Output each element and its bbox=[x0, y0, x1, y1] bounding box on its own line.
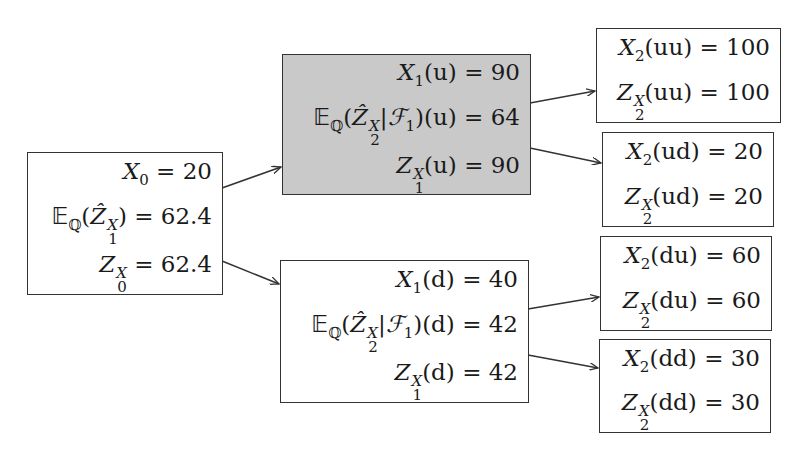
node-d: X1(d) = 40 𝔼ℚ(ẐX2|ℱ1)(d) = 42 ZX1(d) = 4… bbox=[280, 260, 529, 403]
edge-d-du bbox=[528, 297, 599, 309]
edge-u-ud bbox=[530, 148, 601, 163]
root-z0: ZX0 = 62.4 bbox=[99, 246, 212, 294]
node-root: X0 = 20 𝔼ℚ(ẐX1) = 62.4 ZX0 = 62.4 bbox=[27, 152, 223, 295]
node-u: X1(u) = 90 𝔼ℚ(ẐX2|ℱ1)(u) = 64 ZX1(u) = 9… bbox=[282, 54, 531, 195]
u-z1: ZX1(u) = 90 bbox=[396, 147, 520, 195]
d-x1: X1(d) = 40 bbox=[396, 261, 518, 306]
edge-d-dd bbox=[528, 355, 598, 368]
node-uu: X2(uu) = 100 ZX2(uu) = 100 bbox=[596, 28, 781, 123]
dd-z2: ZX2(dd) = 30 bbox=[622, 384, 760, 432]
edge-root-u bbox=[222, 167, 281, 188]
du-z2: ZX2(du) = 60 bbox=[623, 282, 761, 330]
node-ud: X2(ud) = 20 ZX2(ud) = 20 bbox=[602, 132, 774, 227]
edge-root-d bbox=[222, 261, 279, 284]
d-z1: ZX1(d) = 42 bbox=[394, 354, 518, 402]
dd-x2: X2(dd) = 30 bbox=[623, 340, 760, 385]
uu-x2: X2(uu) = 100 bbox=[619, 29, 770, 74]
edge-u-uu bbox=[530, 91, 595, 103]
uu-z2: ZX2(uu) = 100 bbox=[617, 74, 770, 122]
du-x2: X2(du) = 60 bbox=[624, 237, 761, 282]
root-x0: X0 = 20 bbox=[123, 153, 212, 198]
node-du: X2(du) = 60 ZX2(du) = 60 bbox=[600, 236, 772, 331]
u-expectation: 𝔼ℚ(ẐX2|ℱ1)(u) = 64 bbox=[313, 99, 520, 147]
node-dd: X2(dd) = 30 ZX2(dd) = 30 bbox=[599, 339, 771, 433]
u-x1: X1(u) = 90 bbox=[398, 54, 520, 99]
d-expectation: 𝔼ℚ(ẐX2|ℱ1)(d) = 42 bbox=[311, 306, 518, 354]
root-expectation: 𝔼ℚ(ẐX1) = 62.4 bbox=[51, 198, 212, 246]
ud-z2: ZX2(ud) = 20 bbox=[625, 178, 763, 226]
ud-x2: X2(ud) = 20 bbox=[626, 133, 763, 178]
